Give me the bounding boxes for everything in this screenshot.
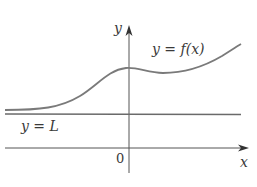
asymptote-line xyxy=(5,114,241,115)
graph-canvas xyxy=(0,0,257,187)
function-curve xyxy=(5,44,241,110)
asymptote-label: y = L xyxy=(21,119,59,133)
curve-label: y = f(x) xyxy=(152,42,205,56)
x-axis-label: x xyxy=(240,155,248,169)
graph-figure: y y = f(x) y = L 0 x xyxy=(0,0,257,187)
y-axis-label: y xyxy=(114,21,122,35)
origin-label: 0 xyxy=(116,152,124,165)
